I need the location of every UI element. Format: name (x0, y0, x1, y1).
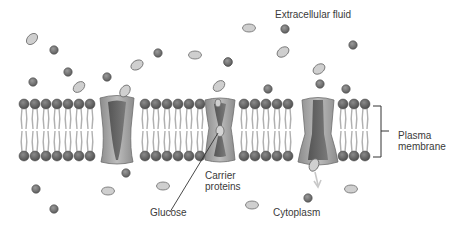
plasma-label-line2: membrane (398, 141, 446, 152)
glucose-molecules-extracellular (24, 24, 327, 107)
cytoplasm-label: Cytoplasm (273, 207, 320, 218)
carrier-proteins-label: Carrier proteins (205, 170, 241, 192)
plasma-label-line1: Plasma (398, 130, 446, 141)
plasma-membrane-bracket (373, 106, 389, 157)
diagram-canvas (0, 0, 470, 236)
release-arrow-icon (314, 172, 321, 187)
carrier-label-line1: Carrier (205, 170, 241, 181)
carrier-protein-3 (298, 98, 338, 188)
carrier-protein-1 (100, 83, 134, 164)
membrane-transport-diagram: Extracellular fluid Plasma membrane Carr… (0, 0, 470, 236)
carrier-protein-2 (205, 98, 235, 162)
plasma-membrane-label: Plasma membrane (398, 130, 446, 152)
extracellular-fluid-label: Extracellular fluid (275, 9, 351, 20)
carrier-label-line2: proteins (205, 181, 241, 192)
glucose-label: Glucose (150, 207, 187, 218)
